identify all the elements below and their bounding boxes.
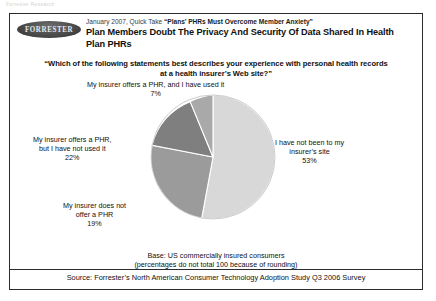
scan-edge-artifact: Forrester Research: [6, 1, 126, 7]
pie-label-phr-not-used: My insurer offers a PHR, but I have not …: [33, 135, 112, 163]
base-note: Base: US commercially insured consumers …: [24, 251, 408, 270]
forrester-logo: FORRESTER: [17, 21, 81, 38]
source-line: Source: Forrester’s North American Consu…: [24, 273, 408, 283]
survey-question-line-1: “Which of the following statements best …: [44, 59, 387, 68]
pie-label-phr-used-value: 7%: [87, 89, 224, 98]
base-note-line-1: Base: US commercially insured consumers: [147, 251, 284, 260]
pie-label-no-phr-offered-value: 19%: [63, 219, 126, 228]
pie-label-phr-used-text: My insurer offers a PHR, and I have used…: [87, 80, 224, 89]
figure-container: FORRESTER January 2007, Quick Take “Plan…: [9, 13, 423, 290]
pie-graphic: [149, 93, 277, 221]
pie-label-not-been-to-site-line-2: insurer’s site: [289, 147, 329, 156]
report-kicker-title: “Plans’ PHRs Must Overcome Member Anxiet…: [164, 18, 313, 25]
source-divider: [10, 269, 422, 270]
pie-label-not-been-to-site-line-1: I have not been to my: [275, 138, 344, 147]
pie-label-no-phr-offered: My insurer does not offer a PHR 19%: [63, 201, 126, 229]
figure-header: FORRESTER January 2007, Quick Take “Plan…: [10, 14, 422, 55]
pie-slice-no-phr-offered: [151, 145, 213, 218]
pie-label-not-been-to-site: I have not been to my insurer’s site 53%: [275, 138, 344, 166]
page-title: Plan Members Doubt The Privacy And Secur…: [86, 27, 414, 50]
pie-label-phr-not-used-line-1: My insurer offers a PHR,: [33, 135, 112, 144]
pie-label-phr-not-used-value: 22%: [33, 153, 112, 162]
survey-question: “Which of the following statements best …: [24, 59, 408, 79]
survey-question-line-2: at a health insurer’s Web site?”: [160, 69, 272, 78]
pie-svg: [149, 93, 277, 221]
pie-label-not-been-to-site-value: 53%: [275, 156, 344, 165]
pie-label-phr-not-used-line-2: but I have not used it: [39, 144, 106, 153]
pie-label-no-phr-offered-line-2: offer a PHR: [76, 210, 113, 219]
forrester-logo-text: FORRESTER: [25, 25, 73, 33]
report-kicker-prefix: January 2007, Quick Take: [86, 18, 164, 25]
report-kicker: January 2007, Quick Take “Plans’ PHRs Mu…: [86, 17, 416, 26]
pie-label-phr-used: My insurer offers a PHR, and I have used…: [87, 80, 224, 98]
pie-chart: My insurer offers a PHR, and I have used…: [10, 80, 422, 240]
pie-label-no-phr-offered-line-1: My insurer does not: [63, 201, 126, 210]
